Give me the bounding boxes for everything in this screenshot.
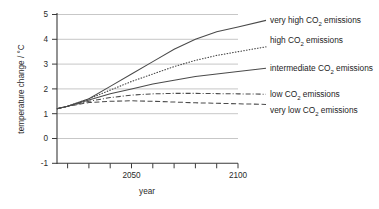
y-tick-label-3: 3 bbox=[43, 60, 48, 69]
legend-text-very-low-main: very low CO bbox=[270, 105, 316, 115]
legend-text-intermediate-main: intermediate CO bbox=[270, 63, 331, 73]
y-axis: 5 4 3 2 1 0 -1 temperature change / °C bbox=[17, 10, 57, 168]
legend-item-high: high CO2 emissions bbox=[270, 35, 343, 47]
x-axis: 2050 2100 year bbox=[57, 163, 248, 196]
legend-text-very-high-tail: emissions bbox=[322, 15, 361, 25]
emissions-temperature-chart: 5 4 3 2 1 0 -1 temperature change / °C 2… bbox=[0, 0, 379, 209]
legend-text-low-main: low CO bbox=[270, 89, 298, 99]
legend-text-intermediate-tail: emissions bbox=[334, 63, 373, 73]
legend-text-very-high-main: very high CO bbox=[270, 15, 319, 25]
series-line-very-low bbox=[57, 101, 266, 109]
x-tick-label-2050: 2050 bbox=[122, 171, 141, 180]
legend-text-low-tail: emissions bbox=[301, 89, 340, 99]
legend-item-low: low CO2 emissions bbox=[270, 89, 340, 101]
legend-text-very-low-tail: emissions bbox=[319, 105, 358, 115]
series-line-very-high bbox=[57, 20, 266, 108]
series-line-low bbox=[57, 93, 266, 108]
chart-svg: 5 4 3 2 1 0 -1 temperature change / °C 2… bbox=[0, 0, 379, 209]
y-tick-label-2: 2 bbox=[43, 85, 48, 94]
y-axis-title: temperature change / °C bbox=[17, 44, 26, 133]
legend-item-intermediate: intermediate CO2 emissions bbox=[270, 63, 373, 75]
legend-item-very-low: very low CO2 emissions bbox=[270, 105, 358, 117]
series-lines bbox=[57, 20, 266, 108]
gridlines bbox=[57, 15, 238, 139]
legend-text-high-main: high CO bbox=[270, 35, 301, 45]
legend-item-very-high: very high CO2 emissions bbox=[270, 15, 361, 27]
x-axis-title: year bbox=[139, 187, 155, 196]
legend-text-high-tail: emissions bbox=[304, 35, 343, 45]
y-tick-label-minus-1: -1 bbox=[41, 159, 49, 168]
y-tick-label-1: 1 bbox=[43, 110, 48, 119]
y-tick-label-0: 0 bbox=[43, 134, 48, 143]
y-tick-label-5: 5 bbox=[43, 10, 48, 19]
y-tick-label-4: 4 bbox=[43, 35, 48, 44]
x-tick-label-2100: 2100 bbox=[229, 171, 248, 180]
legend: very high CO2 emissions high CO2 emissio… bbox=[270, 15, 373, 117]
